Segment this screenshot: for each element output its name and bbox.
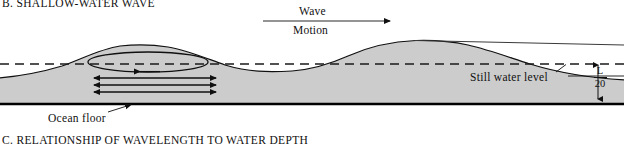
panel-caption: C. RELATIONSHIP OF WAVELENGTH TO WATER D…	[2, 134, 308, 146]
wave-motion-label-line1: Wave	[299, 5, 326, 17]
ocean-floor-leader	[108, 105, 130, 112]
still-water-level-label: Still water level	[470, 71, 548, 83]
depth-fraction-denominator: 20	[589, 79, 611, 90]
ocean-floor-label: Ocean floor	[48, 112, 106, 124]
depth-fraction-numerator: L	[589, 66, 611, 77]
wave-motion-label-line2: Motion	[293, 24, 328, 36]
shallow-water-wave-figure: B. SHALLOW-WATER WAVE Wave Motion Still …	[0, 0, 624, 152]
panel-title: B. SHALLOW-WATER WAVE	[2, 0, 155, 9]
still-water-level-leader	[556, 65, 566, 73]
wave-base-depth-fraction: L 20	[589, 66, 611, 89]
